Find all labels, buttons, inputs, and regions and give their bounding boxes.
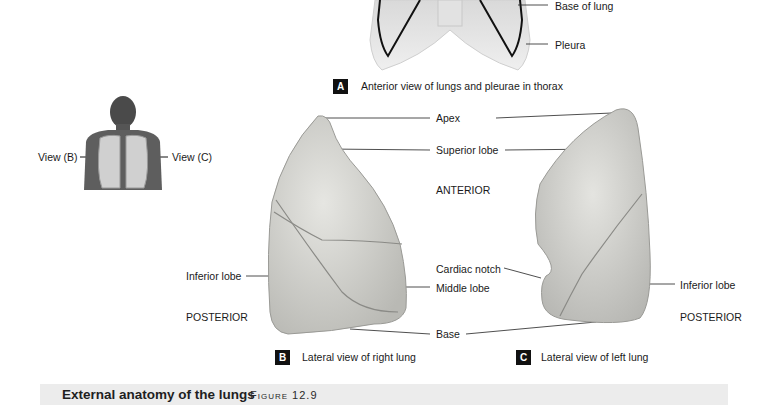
label-base-of-lung: Base of lung [555,0,613,12]
label-middle-lobe: Middle lobe [436,282,490,294]
figure-title: External anatomy of the lungs [62,387,255,402]
figure-caption-bar: External anatomy of the lungs Figure 12.… [40,384,728,405]
label-pleura: Pleura [555,39,585,51]
caption-c: Lateral view of left lung [541,350,648,365]
label-posterior-c: POSTERIOR [680,311,742,323]
label-cardiac-notch: Cardiac notch [436,263,501,275]
caption-a: Anterior view of lungs and pleurae in th… [361,79,563,94]
label-inferior-lobe-b: Inferior lobe [186,270,241,282]
label-inferior-lobe-c: Inferior lobe [680,279,735,291]
badge-c: C [516,350,531,365]
label-view-b: View (B) [38,151,77,163]
label-apex: Apex [436,112,460,124]
right-lung-illustration [262,112,412,337]
label-view-c: View (C) [172,151,212,163]
badge-a: A [333,79,348,94]
caption-b: Lateral view of right lung [302,350,416,365]
left-lung-illustration [530,104,660,329]
label-base: Base [436,328,460,340]
label-anterior: ANTERIOR [436,184,490,196]
label-posterior-b: POSTERIOR [186,311,248,323]
person-figure [78,92,168,190]
figure-number: Figure 12.9 [250,389,318,401]
badge-b: B [275,350,290,365]
label-superior-lobe: Superior lobe [436,144,498,156]
